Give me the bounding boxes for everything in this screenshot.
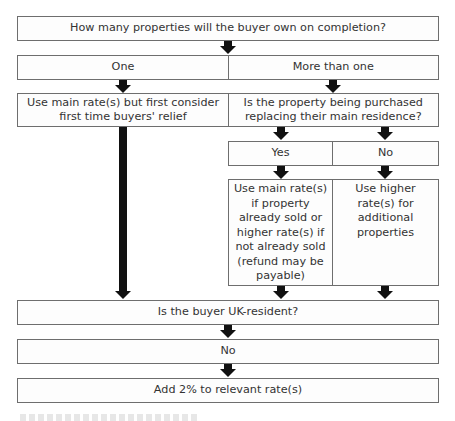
outcome-first-time-buyers: Use main rate(s) but first consider firs… [17,93,229,127]
outcome-main-or-higher-rate: Use main rate(s) if property already sol… [228,179,334,286]
outcome-main-or-higher-rate-text: Use main rate(s) if property already sol… [232,182,330,284]
answer-not-uk-resident-text: No [220,344,235,359]
answer-more-than-one: More than one [228,55,440,80]
answer-no: No [332,141,439,166]
outcome-higher-rate-text: Use higher rate(s) for additional proper… [336,182,435,240]
question-replacing-main-residence-text: Is the property being purchased replacin… [243,96,425,125]
cropped-caption-fragment [20,414,200,421]
outcome-first-time-buyers-text: Use main rate(s) but first consider firs… [18,96,228,125]
answer-yes: Yes [228,141,334,166]
question-uk-resident: Is the buyer UK-resident? [17,300,439,325]
outcome-add-surcharge: Add 2% to relevant rate(s) [17,378,439,403]
question-uk-resident-text: Is the buyer UK-resident? [158,305,298,320]
answer-yes-text: Yes [271,146,289,161]
answer-not-uk-resident: No [17,339,439,364]
answer-no-text: No [378,146,393,161]
answer-one-text: One [112,60,135,75]
question-properties-owned-text: How many properties will the buyer own o… [70,21,386,36]
outcome-higher-rate: Use higher rate(s) for additional proper… [332,179,439,286]
answer-one: One [17,55,229,80]
question-properties-owned: How many properties will the buyer own o… [17,16,439,41]
outcome-add-surcharge-text: Add 2% to relevant rate(s) [154,383,302,398]
question-replacing-main-residence: Is the property being purchased replacin… [228,93,440,127]
answer-more-than-one-text: More than one [293,60,374,75]
